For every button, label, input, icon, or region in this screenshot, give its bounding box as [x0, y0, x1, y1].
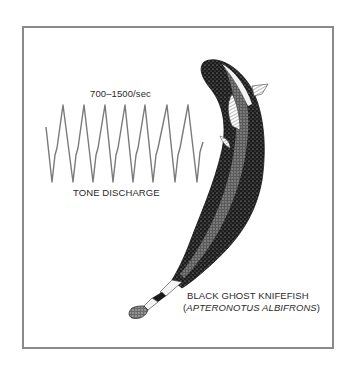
discharge-rate-label: 700–1500/sec: [90, 88, 151, 99]
paren-close: ): [317, 302, 320, 313]
tone-discharge-waveform: [46, 105, 203, 182]
waveform-caption: TONE DISCHARGE: [73, 187, 160, 198]
species-common-name: BLACK GHOST KNIFEFISH: [187, 290, 309, 301]
caudal-fin: [129, 306, 148, 319]
fish-body: [172, 60, 264, 288]
scientific-name-text: APTERONOTUS ALBIFRONS: [186, 302, 317, 313]
species-scientific-name: (APTERONOTUS ALBIFRONS): [183, 302, 320, 313]
dorsal-fin: [252, 84, 268, 96]
